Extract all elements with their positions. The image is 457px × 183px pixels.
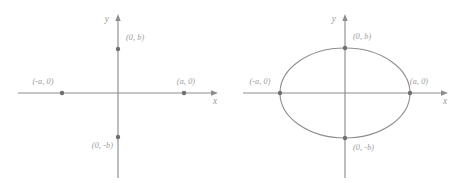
- point-right: [182, 91, 186, 95]
- figure-root: y x (0, b) (a, 0) (-a, 0) (0, -b) y x: [0, 0, 457, 183]
- y-axis-label: y: [104, 14, 110, 24]
- point-left: [278, 91, 282, 95]
- y-axis-label: y: [331, 14, 337, 24]
- point-left: [60, 91, 64, 95]
- x-axis-label: x: [212, 96, 218, 106]
- x-axis-arrow-icon: [211, 90, 218, 95]
- point-top-label: (0, b): [126, 33, 145, 42]
- point-top: [343, 46, 347, 50]
- point-left-label: (-a, 0): [249, 77, 270, 86]
- point-right: [408, 91, 412, 95]
- point-top: [116, 47, 120, 51]
- x-axis-arrow-icon: [441, 90, 448, 95]
- y-axis-arrow-icon: [115, 14, 120, 21]
- point-bottom: [116, 135, 120, 139]
- point-right-label: (a, 0): [410, 77, 429, 86]
- point-bottom: [343, 136, 347, 140]
- y-axis-arrow-icon: [342, 14, 347, 21]
- panel-ellipse: y x (0, b) (a, 0) (-a, 0) (0, -b): [229, 0, 457, 183]
- point-right-label: (a, 0): [177, 77, 196, 86]
- x-axis-label: x: [442, 96, 448, 106]
- point-bottom-label: (0, -b): [353, 143, 374, 152]
- point-bottom-label: (0, -b): [92, 141, 113, 150]
- point-top-label: (0, b): [353, 32, 372, 41]
- panel-four-points: y x (0, b) (a, 0) (-a, 0) (0, -b): [0, 0, 229, 183]
- point-left-label: (-a, 0): [32, 77, 53, 86]
